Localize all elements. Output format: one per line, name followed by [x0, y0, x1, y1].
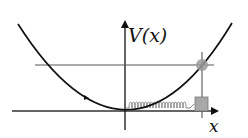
block-mass — [195, 97, 208, 111]
particle-ball — [196, 59, 208, 71]
x-axis-label: x — [209, 116, 219, 136]
potential-diagram: V(x) x — [0, 0, 248, 138]
y-axis-label: V(x) — [128, 24, 167, 46]
spring — [126, 102, 194, 108]
